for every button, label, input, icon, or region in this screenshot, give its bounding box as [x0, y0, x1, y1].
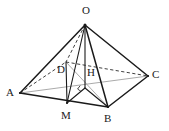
vertex-label-D: D: [57, 64, 65, 75]
diagonal-lines-group: [20, 62, 148, 107]
vertex-M-dot: [66, 102, 68, 104]
edge-OM: [67, 25, 85, 103]
hidden-edges-group: [20, 25, 148, 93]
vertex-label-B: B: [104, 113, 111, 124]
visible-edges-group: [20, 25, 148, 107]
vertex-B-dot: [107, 106, 109, 108]
geometry-figure: O D H C A M B: [0, 0, 169, 131]
pyramid-drawing: [0, 0, 169, 131]
edge-OA: [20, 25, 85, 93]
edge-AB: [20, 93, 108, 107]
edge-MD: [66, 62, 67, 103]
vertex-label-A: A: [6, 87, 14, 98]
vertex-C-dot: [147, 75, 149, 77]
edge-OD: [66, 25, 85, 62]
vertex-O-dot: [84, 24, 87, 27]
vertex-label-O: O: [82, 5, 90, 16]
vertex-label-C: C: [152, 69, 159, 80]
vertex-A-dot: [19, 92, 21, 94]
vertex-label-H: H: [87, 67, 95, 78]
edge-DC: [66, 62, 148, 76]
right-angle-at-H-icon: [78, 86, 81, 92]
vertex-label-M: M: [61, 110, 71, 121]
